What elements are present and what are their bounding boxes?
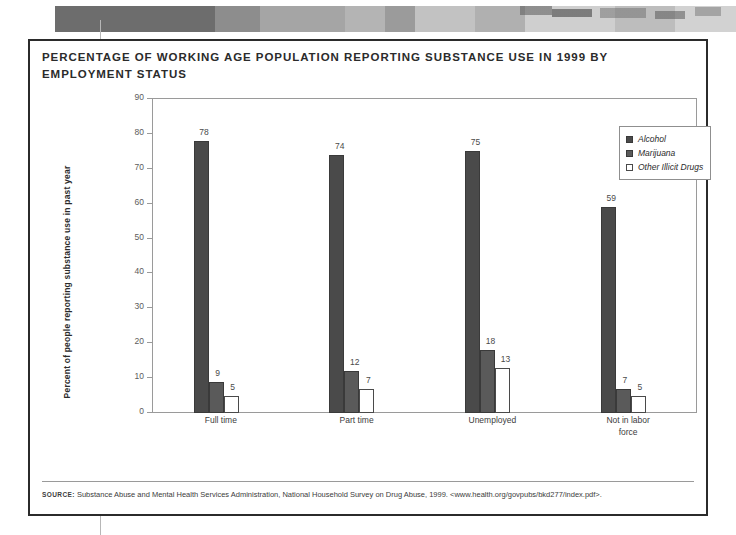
legend-item: Alcohol: [626, 132, 703, 146]
decorative-header-banner: [55, 6, 736, 32]
bar-value-label: 12: [350, 357, 359, 367]
bar-value-label: 9: [215, 368, 220, 378]
y-tick-label: 70: [135, 162, 144, 172]
bar-group: 751813: [465, 99, 510, 413]
chart-legend: AlcoholMarijuanaOther Illicit Drugs: [619, 126, 711, 180]
bar: 7: [359, 389, 374, 413]
bar-value-label: 7: [623, 375, 628, 385]
bar: 12: [344, 371, 359, 413]
y-tick-label: 20: [135, 336, 144, 346]
bar: 7: [616, 389, 631, 413]
x-category-label: Part time: [289, 414, 425, 426]
vertical-rule-top: [100, 20, 101, 40]
source-text: Substance Abuse and Mental Health Servic…: [77, 490, 602, 499]
y-tick-label: 40: [135, 266, 144, 276]
y-tick-label: 80: [135, 127, 144, 137]
bars-layer: 7895741277518135975: [153, 99, 696, 413]
y-axis-title: Percent of people reporting substance us…: [62, 117, 72, 447]
plot-wrapper: 0102030405060708090 7895741277518135975 …: [122, 98, 697, 468]
bar: 18: [480, 350, 495, 413]
bar: 9: [209, 382, 224, 413]
y-tick-label: 10: [135, 371, 144, 381]
bar-value-label: 5: [638, 382, 643, 392]
source-divider: [42, 481, 694, 482]
y-tick-label: 50: [135, 232, 144, 242]
x-category-label: Unemployed: [425, 414, 561, 426]
chart-panel: PERCENTAGE OF WORKING AGE POPULATION REP…: [28, 39, 708, 516]
bar-value-label: 18: [486, 336, 495, 346]
bar-value-label: 13: [501, 354, 510, 364]
source-label: SOURCE:: [42, 491, 75, 498]
legend-item: Other Illicit Drugs: [626, 160, 703, 174]
bar-group: 7895: [194, 99, 239, 413]
legend-item: Marijuana: [626, 146, 703, 160]
bar-value-label: 59: [607, 193, 616, 203]
chart-title: PERCENTAGE OF WORKING AGE POPULATION REP…: [42, 49, 662, 83]
bar-value-label: 5: [230, 382, 235, 392]
y-tick-label: 30: [135, 301, 144, 311]
y-tick-label: 90: [135, 92, 144, 102]
legend-swatch-icon: [626, 164, 633, 171]
bar: 5: [224, 396, 239, 413]
bar-value-label: 75: [471, 137, 480, 147]
bar: 5: [631, 396, 646, 413]
vertical-rule-bottom: [100, 516, 101, 535]
x-axis-category-labels: Full timePart timeUnemployedNot in labor…: [153, 414, 696, 446]
bar-value-label: 74: [335, 141, 344, 151]
bar: 75: [465, 151, 480, 413]
legend-label: Other Illicit Drugs: [638, 162, 703, 172]
source-note: SOURCE: Substance Abuse and Mental Healt…: [42, 489, 694, 500]
legend-label: Alcohol: [638, 134, 666, 144]
legend-swatch-icon: [626, 136, 633, 143]
bar-value-label: 78: [199, 127, 208, 137]
bar: 74: [329, 155, 344, 413]
x-category-label: Full time: [153, 414, 289, 426]
legend-label: Marijuana: [638, 148, 675, 158]
bar: 13: [495, 368, 510, 413]
y-tick-label: 60: [135, 197, 144, 207]
legend-swatch-icon: [626, 150, 633, 157]
bar: 59: [601, 207, 616, 413]
y-axis-ticks: 0102030405060708090: [122, 98, 152, 413]
bar-group: 74127: [329, 99, 374, 413]
x-category-label: Not in labor force: [560, 414, 696, 438]
y-tick-label: 0: [139, 406, 144, 416]
bar: 78: [194, 141, 209, 413]
banner-texture: [55, 6, 736, 32]
bar-value-label: 7: [366, 375, 371, 385]
